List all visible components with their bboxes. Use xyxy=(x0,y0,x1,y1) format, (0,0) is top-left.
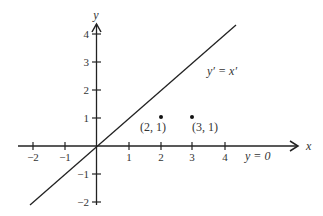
diagram-canvas: −2 −1 1 2 3 4 x y = 0 4 3 2 1 −1 −2 y y′… xyxy=(0,0,323,216)
x-axis: −2 −1 1 2 3 4 x y = 0 xyxy=(18,139,312,163)
x-tick-label: −1 xyxy=(59,151,71,163)
point-label: (2, 1) xyxy=(140,120,166,134)
y-tick-label: 3 xyxy=(84,56,90,68)
x-tick-label: 3 xyxy=(189,151,195,163)
y-tick-label: −2 xyxy=(77,196,89,208)
x-axis-label: x xyxy=(305,139,312,153)
x-tick-label: 2 xyxy=(158,151,164,163)
y-tick-label: 2 xyxy=(84,84,90,96)
line-y-equals-x xyxy=(30,25,236,205)
y-tick-label: 1 xyxy=(84,112,90,124)
x-tick-label: 1 xyxy=(126,151,132,163)
line-label-yx: y′ = x′ xyxy=(206,64,237,78)
y-axis: 4 3 2 1 −1 −2 y xyxy=(77,8,101,208)
y-tick-label: −1 xyxy=(77,168,89,180)
point-2-1 xyxy=(159,115,163,119)
point-3-1 xyxy=(190,115,194,119)
y-tick-label: 4 xyxy=(84,28,90,40)
line-label-y0: y = 0 xyxy=(244,149,270,163)
point-label: (3, 1) xyxy=(192,120,218,134)
x-tick-label: −2 xyxy=(27,151,39,163)
x-tick-label: 4 xyxy=(222,151,228,163)
y-axis-label: y xyxy=(92,8,99,22)
